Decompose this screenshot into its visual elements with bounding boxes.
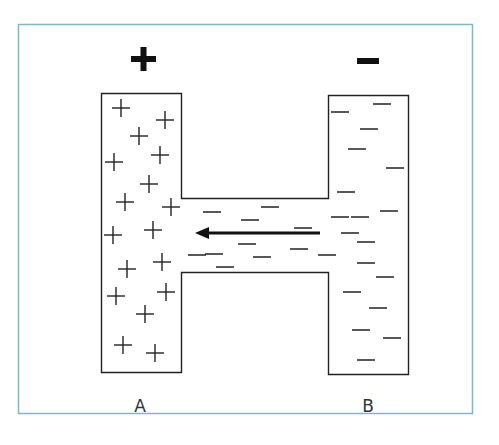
label-a: A <box>134 396 146 416</box>
label-b: B <box>362 396 374 416</box>
negative-terminal-icon <box>357 58 379 64</box>
diagram-frame <box>19 25 473 414</box>
h-conductor-diagram: A B <box>0 0 499 445</box>
